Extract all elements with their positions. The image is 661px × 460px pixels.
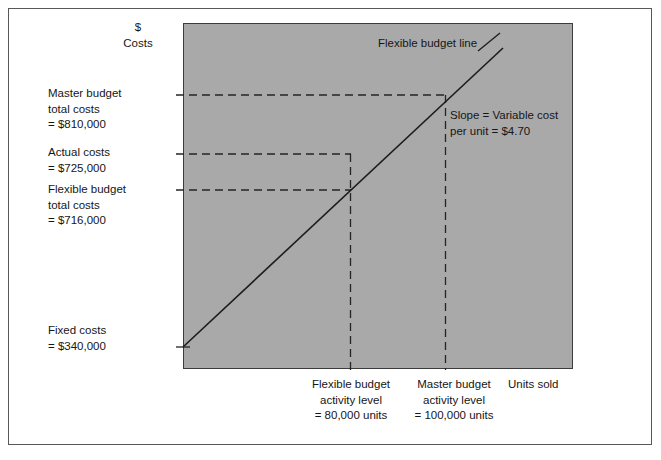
x-axis-title: Units sold xyxy=(508,377,608,393)
y-axis-title: $ Costs xyxy=(98,20,178,51)
label-actual-costs: Actual costs = $725,000 xyxy=(48,145,178,176)
label-master-budget-total-costs: Master budget total costs = $810,000 xyxy=(48,86,178,133)
annotation-flexible-budget-line: Flexible budget line xyxy=(378,36,498,52)
label-fixed-costs: Fixed costs = $340,000 xyxy=(48,323,178,354)
label-master-budget-activity-level: Master budget activity level = 100,000 u… xyxy=(393,377,515,424)
annotation-slope: Slope = Variable cost per unit = $4.70 xyxy=(450,108,608,139)
plot-area xyxy=(183,23,573,369)
label-flexible-budget-total-costs: Flexible budget total costs = $716,000 xyxy=(48,182,178,229)
chart-canvas: $ Costs Master budget total costs = $810… xyxy=(0,0,661,460)
